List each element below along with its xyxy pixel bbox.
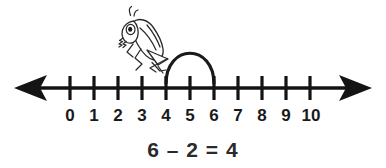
- tick-label-9: 9: [281, 106, 290, 125]
- grasshopper-mouthpart-icon: [119, 38, 123, 47]
- tick-label-7: 7: [233, 106, 242, 125]
- tick-label-6: 6: [209, 106, 218, 125]
- grasshopper-middle-leg: [135, 49, 142, 70]
- grasshopper-antenna-short-icon: [134, 10, 138, 16]
- tick-label-8: 8: [257, 106, 266, 125]
- grasshopper-pupil: [128, 27, 132, 32]
- equation: 6 – 2 = 4: [147, 138, 238, 161]
- tick-label-3: 3: [137, 106, 146, 125]
- number-line: 0 1 2 3 4 5 6 7 8 9 10: [14, 75, 372, 125]
- grasshopper-mouthpart-icon: [123, 42, 126, 48]
- tick-label-0: 0: [65, 106, 74, 125]
- tick-labels: 0 1 2 3 4 5 6 7 8 9 10: [65, 106, 320, 125]
- number-line-figure: 0 1 2 3 4 5 6 7 8 9 10 6 – 2 = 4: [0, 0, 386, 168]
- tick-label-5: 5: [185, 106, 194, 125]
- grasshopper-antenna-icon: [129, 7, 131, 16]
- tick-label-4: 4: [161, 106, 171, 125]
- figure-canvas: 0 1 2 3 4 5 6 7 8 9 10 6 – 2 = 4: [0, 0, 386, 168]
- tick-label-2: 2: [113, 106, 122, 125]
- grasshopper-illustration: [119, 7, 168, 74]
- tick-label-1: 1: [89, 106, 98, 125]
- grasshopper-front-leg: [127, 44, 133, 57]
- tick-label-10: 10: [302, 106, 321, 125]
